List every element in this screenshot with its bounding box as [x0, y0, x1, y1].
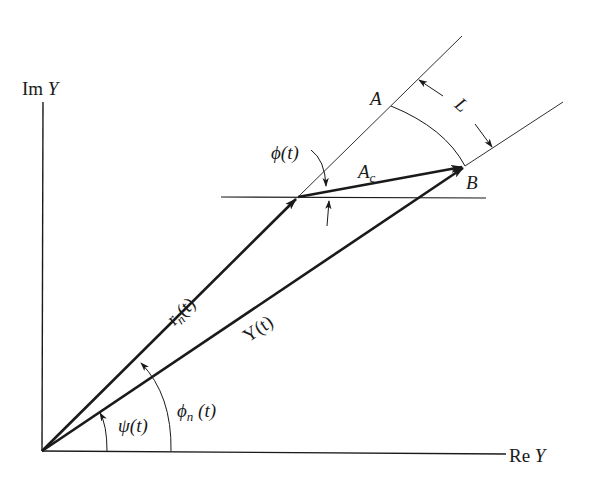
re-axis: [42, 451, 506, 454]
l-arrow-upper: [419, 80, 443, 96]
point-a-label: A: [368, 88, 382, 109]
l-arrow-lower: [475, 124, 492, 147]
phi-n-label: ϕn (t): [177, 400, 216, 424]
point-b-label: B: [466, 172, 478, 193]
phi-top-arrow: [311, 150, 326, 186]
psi-label: ψ(t): [118, 415, 148, 437]
phi-bottom-arrow: [327, 201, 329, 226]
y-extension-line: [465, 102, 563, 166]
l-dimension-label: L: [450, 93, 472, 117]
re-axis-label: Re Y: [509, 445, 548, 466]
psi-arc: [100, 413, 107, 451]
im-axis-label: Im Y: [22, 78, 61, 99]
phasor-diagram: Im Y Re Y A B L ϕ(t) Ac rn(t) Y(t) ψ(t) …: [0, 0, 590, 484]
arc-a-b: [391, 106, 465, 166]
vector-ac: [298, 167, 462, 197]
im-axis: [42, 102, 43, 451]
vector-y: [42, 168, 463, 451]
phi-label: ϕ(t): [271, 142, 299, 164]
horizontal-reference-line: [221, 197, 486, 198]
ac-label: Ac: [356, 161, 376, 185]
rn-extension-line: [298, 36, 462, 197]
phi-n-arc: [141, 363, 171, 451]
